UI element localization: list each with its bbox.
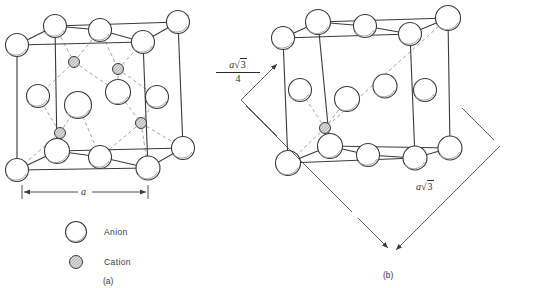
crystal-structure-figure: a Anion Cation (a) a√3 4 a√3 (b)	[0, 0, 537, 288]
panel-b-caption: (b)	[383, 270, 393, 280]
body-diagonal-radicand: 3	[427, 180, 434, 192]
body-diagonal-radical: √3	[421, 181, 434, 192]
quarter-diagonal-radicand: 3	[240, 58, 247, 70]
panel-b-cell	[241, 6, 500, 251]
panel-b-quarter-diagonal-label: a√3 4	[216, 60, 260, 84]
quarter-diagonal-numerator: a√3	[216, 60, 260, 73]
panel-b-cations	[320, 123, 331, 134]
panel-b-body-diagonal-label: a√3	[416, 181, 434, 192]
legend-markers	[62, 220, 92, 276]
cation-icon	[70, 256, 83, 269]
legend-label-anion: Anion	[104, 227, 128, 237]
legend-label-cation: Cation	[104, 257, 131, 267]
panel-a-cell	[6, 11, 195, 200]
panel-a-caption: (a)	[103, 276, 113, 286]
quarter-diagonal-denominator: 4	[216, 73, 260, 85]
quarter-diagonal-radical: √3	[234, 59, 247, 70]
panel-a-dimension-label: a	[81, 186, 86, 197]
panel-b-dimension-diagonal	[246, 106, 500, 250]
